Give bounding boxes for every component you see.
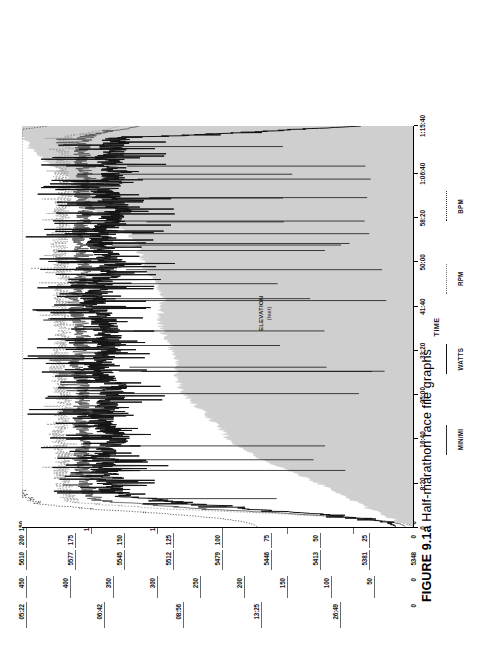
time-tick-label: 1:15:40: [419, 115, 426, 137]
axis-tick-label: 5512: [165, 550, 174, 570]
axis-tick-rpm: 125: [165, 533, 174, 548]
axis-tick-label: 400: [62, 576, 71, 598]
axis-tick-label: 200: [236, 576, 245, 598]
axis-tick-watts: 100: [323, 576, 332, 598]
axis-tick-label: 5545: [116, 550, 125, 570]
axis-tick-feet: 5413: [312, 550, 321, 570]
legend-item-min-mi: MIN/MI: [446, 425, 467, 455]
axis-tick-label: 08:56: [175, 602, 184, 628]
axis-tick-label: 5610: [18, 550, 27, 570]
axis-tick-label: 350: [105, 576, 114, 598]
axis-tick-label: 100: [214, 533, 223, 548]
axis-tick-label: 06:42: [96, 602, 105, 628]
axis-tick-minmi: 05:22: [18, 602, 27, 628]
time-tick-mark: [414, 527, 418, 528]
time-tick-mark: [414, 125, 418, 126]
figure-caption: FIGURE 9.1a Half-marathon race file grap…: [420, 349, 434, 602]
axis-tick-minmi: 13:25: [253, 602, 262, 628]
rotated-figure-page: MIN/MI 05:2206:4208:5613:2526:490 WATTS …: [0, 0, 480, 646]
axis-tick-label: 75: [263, 533, 272, 548]
axis-tick-rpm: 0: [410, 533, 418, 548]
time-tick-label: 50:00: [419, 254, 426, 270]
figure-caption-text: Half-marathon race file graphs: [420, 349, 434, 522]
axis-tick-watts: 450: [18, 576, 27, 598]
axis-tick-feet: 5512: [165, 550, 174, 570]
legend-swatch-icon: [446, 425, 447, 455]
axis-tick-minmi: 08:56: [175, 602, 184, 628]
legend-swatch-icon: [446, 191, 447, 221]
axis-tick-label: 50: [312, 533, 321, 548]
axis-tick-watts: 300: [149, 576, 158, 598]
axis-tick-feet: 5479: [214, 550, 223, 570]
time-tick-mark: [414, 173, 418, 174]
time-tick-label: 58:20: [419, 210, 426, 226]
axis-tick-feet: 5446: [263, 550, 272, 570]
time-tick-label: 41:40: [419, 298, 426, 314]
axis-tick-feet: 5381: [361, 550, 370, 570]
axis-tick-watts: 150: [279, 576, 288, 598]
axis-tick-rpm: 75: [263, 533, 272, 548]
axis-tick-watts: 250: [192, 576, 201, 598]
figure-caption-number: FIGURE 9.1a: [420, 525, 434, 602]
axis-tick-label: 100: [323, 576, 332, 598]
legend-swatch-icon: [446, 264, 447, 294]
chart-canvas: [22, 126, 413, 527]
axis-tick-label: 5479: [214, 550, 223, 570]
axis-tick-rpm: 200: [18, 533, 27, 548]
axis-tick-label: 300: [149, 576, 158, 598]
axis-tick-label: 0: [410, 602, 418, 628]
figure-wrapper: MIN/MI 05:2206:4208:5613:2526:490 WATTS …: [0, 0, 480, 646]
legend-label: BPM: [457, 199, 464, 214]
axis-tick-watts: 50: [366, 576, 375, 598]
axis-tick-watts: 200: [236, 576, 245, 598]
axis-tick-watts: 400: [62, 576, 71, 598]
axis-tick-label: 200: [18, 533, 27, 548]
axis-tick-rpm: 175: [67, 533, 76, 548]
chart-plot-area: ELEVATION (feet): [22, 126, 414, 528]
axis-tick-label: 250: [192, 576, 201, 598]
time-tick-mark: [414, 306, 418, 307]
axis-tick-label: 26:49: [332, 602, 341, 628]
time-tick-mark: [414, 217, 418, 218]
axis-tick-watts: 350: [105, 576, 114, 598]
axis-tick-minmi: 0: [410, 602, 418, 628]
legend-item-rpm: RPM: [446, 264, 467, 294]
time-tick-mark: [414, 438, 418, 439]
legend-label: RPM: [457, 271, 464, 286]
axis-tick-label: 25: [361, 533, 370, 548]
legend-label: WATTS: [457, 348, 464, 371]
axis-tick-label: 150: [116, 533, 125, 548]
axis-tick-feet: 5577: [67, 550, 76, 570]
time-tick-mark: [414, 350, 418, 351]
axis-tick-label: 125: [165, 533, 174, 548]
elevation-annotation-subtitle: (feet): [266, 296, 273, 331]
axis-tick-rpm: 150: [116, 533, 125, 548]
axis-tick-label: 5348: [410, 550, 418, 570]
legend-label: MIN/MI: [457, 429, 464, 451]
axis-tick-feet: 5545: [116, 550, 125, 570]
axis-tick-feet: 5610: [18, 550, 27, 570]
legend-swatch-icon: [446, 344, 447, 374]
axis-tick-label: 5577: [67, 550, 76, 570]
legend-item-bpm: BPM: [446, 191, 467, 221]
axis-tick-label: 50: [366, 576, 375, 598]
axis-tick-label: 5381: [361, 550, 370, 570]
legend-item-watts: WATTS: [446, 344, 467, 374]
time-tick-label: 1:06:40: [419, 163, 426, 185]
axis-tick-minmi: 26:49: [332, 602, 341, 628]
time-tick-mark: [414, 261, 418, 262]
axis-tick-label: 5446: [263, 550, 272, 570]
axis-tick-feet: 5348: [410, 550, 418, 570]
time-tick-mark: [414, 394, 418, 395]
axis-tick-label: 450: [18, 576, 27, 598]
axis-tick-watts: 0: [410, 576, 418, 598]
time-tick-mark: [414, 483, 418, 484]
axis-tick-label: 13:25: [253, 602, 262, 628]
axis-tick-rpm: 50: [312, 533, 321, 548]
axis-tick-label: 5413: [312, 550, 321, 570]
axis-tick-label: 0: [410, 576, 418, 598]
axis-tick-rpm: 25: [361, 533, 370, 548]
elevation-annotation-title: ELEVATION: [258, 296, 266, 331]
axis-tick-rpm: 100: [214, 533, 223, 548]
axis-tick-label: 05:22: [18, 602, 27, 628]
